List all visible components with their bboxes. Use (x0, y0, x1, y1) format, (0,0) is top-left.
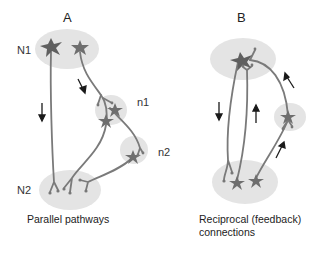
panel-b-caption-line1: Reciprocal (feedback) (199, 213, 301, 226)
label-n2: n2 (158, 147, 170, 158)
label-n1: n1 (137, 97, 149, 108)
panel-b-caption-line2: connections (199, 226, 255, 239)
arrow-down-icon (216, 114, 222, 120)
panel-b-title: B (237, 11, 246, 24)
arrow-up-icon (253, 105, 259, 111)
region-B-bottom (212, 160, 278, 204)
panel-a-caption: Parallel pathways (27, 213, 109, 226)
label-N2: N2 (17, 185, 31, 196)
region-N1 (35, 29, 99, 69)
arrow-down-icon (39, 115, 45, 121)
panel-a-title: A (63, 11, 72, 24)
arrow-down-right-icon (80, 86, 86, 93)
label-N1: N1 (17, 45, 31, 56)
arrow-up-right-icon (279, 142, 285, 148)
panel-a-arrows (39, 79, 86, 121)
